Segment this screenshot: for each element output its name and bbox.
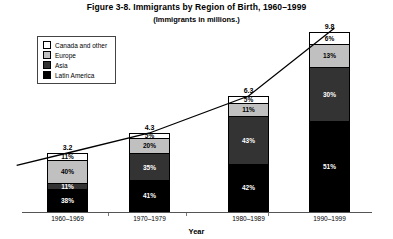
- x-axis-label: 1960–1969: [33, 215, 103, 222]
- x-axis-title: Year: [0, 227, 393, 236]
- bar-segment-asia[interactable]: 43%: [229, 116, 268, 164]
- bar-segment-canada-and-other[interactable]: 6%: [310, 33, 349, 44]
- x-axis-label: 1990–1999: [295, 215, 365, 222]
- x-axis-line: [22, 212, 372, 213]
- bar-total-label: 9.8: [309, 23, 350, 30]
- bar-segment-europe[interactable]: 40%: [48, 160, 87, 183]
- plot-area: 11%40%11%38%3.21960–19695%20%35%41%4.319…: [0, 0, 393, 239]
- stacked-bar[interactable]: 6%13%30%51%: [309, 32, 350, 212]
- x-axis-label: 1980–1989: [214, 215, 284, 222]
- bar-segment-asia[interactable]: 35%: [130, 153, 169, 180]
- bar-total-label: 3.2: [47, 144, 88, 151]
- x-axis-tick: [186, 213, 187, 216]
- bar-segment-asia[interactable]: 11%: [48, 183, 87, 190]
- bar-segment-latin-america[interactable]: 41%: [130, 180, 169, 211]
- bar-segment-asia[interactable]: 30%: [310, 67, 349, 121]
- x-axis-label: 1970–1979: [115, 215, 185, 222]
- stacked-bar[interactable]: 5%20%35%41%: [129, 133, 170, 212]
- x-axis-tick: [108, 213, 109, 216]
- stacked-bar[interactable]: 11%40%11%38%: [47, 153, 88, 212]
- bar-total-label: 6.3: [228, 87, 269, 94]
- bar-segment-latin-america[interactable]: 38%: [48, 189, 87, 211]
- figure-3-8-chart: Figure 3-8. Immigrants by Region of Birt…: [0, 0, 393, 239]
- bar-segment-europe[interactable]: 20%: [130, 138, 169, 154]
- bar-segment-latin-america[interactable]: 42%: [229, 164, 268, 211]
- bar-segment-europe[interactable]: 13%: [310, 44, 349, 68]
- bar-segment-latin-america[interactable]: 51%: [310, 121, 349, 211]
- stacked-bar[interactable]: 5%11%43%42%: [228, 96, 269, 212]
- bar-segment-europe[interactable]: 11%: [229, 103, 268, 116]
- bar-total-label: 4.3: [129, 124, 170, 131]
